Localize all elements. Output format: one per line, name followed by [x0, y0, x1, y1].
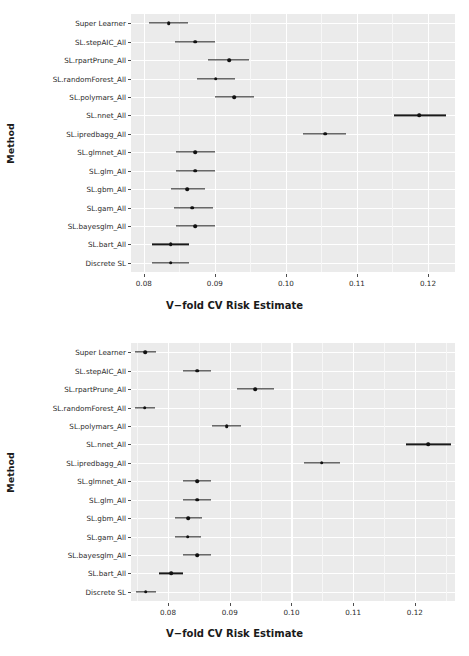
- chart-panel-bottom: MethodSuper LearnerSL.stepAIC_AllSL.rpar…: [0, 328, 469, 656]
- gridline-major: [286, 14, 287, 272]
- y-axis-tick-mark: [128, 79, 131, 80]
- x-axis-tick-label: 0.12: [420, 279, 436, 288]
- gridline-horizontal: [131, 500, 455, 501]
- x-axis-tick-mark: [144, 274, 145, 277]
- y-axis-tick-mark: [128, 573, 131, 574]
- data-point: [195, 369, 199, 373]
- data-point: [193, 169, 197, 173]
- x-axis-tick-label: 0.11: [345, 608, 361, 617]
- gridline-horizontal: [131, 408, 455, 409]
- y-axis-tick-mark: [128, 352, 131, 353]
- gridline-horizontal: [131, 555, 455, 556]
- gridline-major: [230, 343, 231, 601]
- y-axis-tick-mark: [128, 408, 131, 409]
- y-axis-tick-label: SL.glmnet_All: [77, 477, 126, 486]
- data-point: [193, 40, 197, 44]
- y-axis-tick-mark: [128, 226, 131, 227]
- data-point: [185, 187, 189, 191]
- data-point: [227, 58, 231, 62]
- gridline-major: [144, 14, 145, 272]
- y-axis-tick-mark: [128, 23, 131, 24]
- gridline-major: [415, 343, 416, 601]
- y-axis-tick-label: Discrete SL: [85, 258, 126, 267]
- y-axis-tick-label: SL.bayesglm_All: [68, 550, 126, 559]
- gridline-minor: [392, 14, 393, 272]
- y-axis-tick-mark: [128, 500, 131, 501]
- gridline-major: [428, 14, 429, 272]
- y-axis-tick-mark: [128, 97, 131, 98]
- gridline-minor: [322, 343, 323, 601]
- gridline-minor: [250, 14, 251, 272]
- x-axis-tick-label: 0.09: [207, 279, 223, 288]
- x-axis-title: V−fold CV Risk Estimate: [0, 300, 469, 311]
- gridline-horizontal: [131, 481, 455, 482]
- x-axis-tick-mark: [230, 603, 231, 606]
- plot-panel: [131, 14, 455, 272]
- y-axis-tick-mark: [128, 208, 131, 209]
- data-point: [193, 224, 197, 228]
- y-axis-tick-label: SL.gam_All: [87, 203, 126, 212]
- data-point: [195, 498, 199, 502]
- x-axis-tick-mark: [357, 274, 358, 277]
- x-axis-title: V−fold CV Risk Estimate: [0, 628, 469, 639]
- y-axis-tick-label: SL.rpartPrune_All: [64, 56, 126, 65]
- y-axis-tick-mark: [128, 60, 131, 61]
- gridline-horizontal: [131, 463, 455, 464]
- gridline-horizontal: [131, 371, 455, 372]
- y-axis-tick-mark: [128, 152, 131, 153]
- y-axis-tick-mark: [128, 389, 131, 390]
- data-point: [186, 535, 190, 539]
- gridline-minor: [261, 343, 262, 601]
- data-point: [427, 443, 431, 447]
- y-axis-tick-label: SL.gbm_All: [87, 185, 126, 194]
- y-axis-tick-mark: [128, 371, 131, 372]
- data-point: [195, 553, 199, 557]
- gridline-minor: [137, 343, 138, 601]
- gridline-minor: [384, 343, 385, 601]
- y-axis-tick-label: SL.randomForest_All: [53, 74, 126, 83]
- data-point: [214, 77, 218, 81]
- y-axis-tick-label: SL.ipredbagg_All: [66, 129, 126, 138]
- data-point: [253, 387, 257, 391]
- data-point: [167, 21, 171, 25]
- y-axis-tick-labels: Super LearnerSL.stepAIC_AllSL.rpartPrune…: [0, 14, 126, 272]
- data-point: [143, 406, 147, 410]
- x-axis-tick-label: 0.12: [407, 608, 423, 617]
- y-axis-tick-mark: [128, 592, 131, 593]
- gridline-horizontal: [131, 389, 455, 390]
- data-point: [225, 424, 229, 428]
- y-axis-tick-label: SL.ipredbagg_All: [66, 458, 126, 467]
- gridline-minor: [446, 343, 447, 601]
- y-axis-tick-label: SL.glmnet_All: [77, 148, 126, 157]
- data-point: [190, 206, 194, 210]
- y-axis-tick-label: SL.gam_All: [87, 532, 126, 541]
- x-axis-tick-mark: [286, 274, 287, 277]
- y-axis-tick-label: SL.nnet_All: [86, 111, 126, 120]
- data-point: [143, 350, 147, 354]
- y-axis-tick-mark: [128, 189, 131, 190]
- gridline-minor: [199, 343, 200, 601]
- y-axis-tick-labels: Super LearnerSL.stepAIC_AllSL.rpartPrune…: [0, 343, 126, 601]
- y-axis-tick-label: SL.polymars_All: [69, 421, 126, 430]
- data-point: [187, 516, 191, 520]
- x-axis-tick-mark: [353, 603, 354, 606]
- gridline-major: [291, 343, 292, 601]
- y-axis-tick-label: Discrete SL: [85, 587, 126, 596]
- y-axis-tick-mark: [128, 42, 131, 43]
- x-axis-tick-label: 0.08: [160, 608, 176, 617]
- data-point: [320, 461, 324, 465]
- x-axis-tick-label: 0.08: [136, 279, 152, 288]
- y-axis-tick-label: SL.glm_All: [89, 166, 126, 175]
- plot-panel: [131, 343, 455, 601]
- data-point: [193, 150, 197, 154]
- y-axis-tick-mark: [128, 263, 131, 264]
- data-point: [232, 95, 236, 99]
- y-axis-tick-mark: [128, 537, 131, 538]
- forest-plot-figure: MethodSuper LearnerSL.stepAIC_AllSL.rpar…: [0, 0, 469, 656]
- y-axis-tick-label: SL.glm_All: [89, 495, 126, 504]
- data-point: [144, 590, 148, 594]
- y-axis-tick-mark: [128, 426, 131, 427]
- data-point: [418, 114, 422, 118]
- gridline-horizontal: [131, 426, 455, 427]
- x-axis-tick-label: 0.10: [278, 279, 294, 288]
